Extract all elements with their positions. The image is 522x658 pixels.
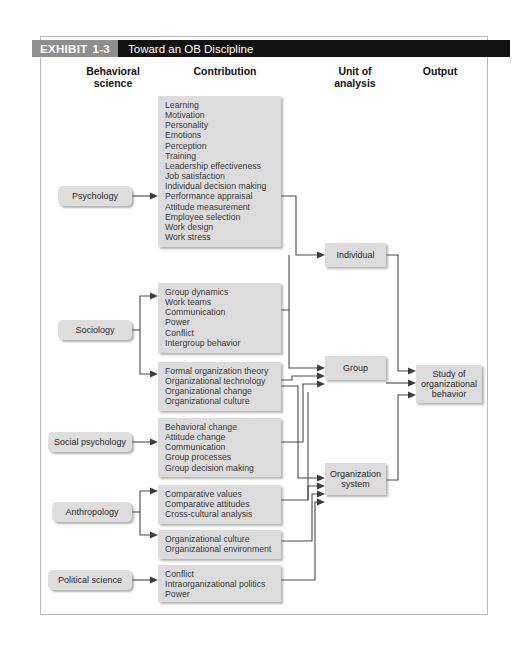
contribution-item: Leadership effectiveness <box>165 161 275 171</box>
contribution-item: Work stress <box>165 232 275 242</box>
discipline-label: Political science <box>58 575 122 585</box>
contribution-item: Conflict <box>165 328 275 338</box>
contribution-item: Organizational technology <box>165 376 275 386</box>
contribution-item: Communication <box>165 307 275 317</box>
contribution-item: Power <box>165 589 275 599</box>
contribution-item: Perception <box>165 141 275 151</box>
discipline-social-psychology[interactable]: Social psychology <box>48 432 132 452</box>
unit-label-line-1: Organization <box>330 469 381 479</box>
contribution-box-political-science[interactable]: ConflictIntraorganizational politicsPowe… <box>158 565 281 602</box>
unit-organization-system[interactable]: Organization system <box>325 463 386 495</box>
contribution-item: Attitude change <box>165 432 275 442</box>
contribution-item: Motivation <box>165 110 275 120</box>
contribution-item: Group processes <box>165 452 275 462</box>
unit-individual[interactable]: Individual <box>325 243 386 267</box>
contribution-item: Behavioral change <box>165 422 275 432</box>
contribution-item: Attitude measurement <box>165 202 275 212</box>
output-label-line-1: Study of <box>432 369 465 379</box>
contribution-item: Formal organization theory <box>165 366 275 376</box>
unit-label: Individual <box>336 250 374 260</box>
contribution-item: Organizational culture <box>165 396 275 406</box>
discipline-label: Social psychology <box>54 437 126 447</box>
exhibit-tag: EXHIBIT 1-3 <box>32 40 118 57</box>
contribution-item: Work teams <box>165 297 275 307</box>
contribution-box-psychology[interactable]: LearningMotivationPersonalityEmotionsPer… <box>158 96 281 247</box>
contribution-item: Organizational change <box>165 386 275 396</box>
output-study-of-organizational-behavior[interactable]: Study of organizational behavior <box>416 365 482 403</box>
contribution-item: Power <box>165 317 275 327</box>
contribution-item: Cross-cultural analysis <box>165 509 275 519</box>
unit-of-analysis-line-2: analysis <box>305 78 405 90</box>
contribution-item: Organizational environment <box>165 544 275 554</box>
contribution-item: Comparative attitudes <box>165 499 275 509</box>
contribution-item: Personality <box>165 120 275 130</box>
contribution-item: Emotions <box>165 130 275 140</box>
contribution-item: Group dynamics <box>165 287 275 297</box>
contribution-item: Individual decision making <box>165 181 275 191</box>
discipline-label: Sociology <box>75 325 114 335</box>
contribution-item: Intergroup behavior <box>165 338 275 348</box>
contribution-item: Performance appraisal <box>165 191 275 201</box>
contribution-box-anthropology-group[interactable]: Comparative valuesComparative attitudesC… <box>158 485 281 524</box>
discipline-label: Psychology <box>72 191 118 201</box>
behavioral-science-line-1: Behavioral <box>58 66 168 78</box>
contribution-item: Communication <box>165 442 275 452</box>
discipline-sociology[interactable]: Sociology <box>58 320 132 340</box>
exhibit-header: EXHIBIT 1-3 Toward an OB Discipline <box>32 40 510 57</box>
exhibit-word: EXHIBIT <box>40 43 87 55</box>
discipline-psychology[interactable]: Psychology <box>58 186 132 206</box>
contribution-item: Comparative values <box>165 489 275 499</box>
contribution-item: Employee selection <box>165 212 275 222</box>
column-heading-behavioral-science: Behavioral science <box>58 66 168 89</box>
column-heading-contribution: Contribution <box>165 66 285 78</box>
discipline-label: Anthropology <box>65 507 118 517</box>
contribution-item: Job satisfaction <box>165 171 275 181</box>
contribution-item: Group decision making <box>165 463 275 473</box>
contribution-item: Learning <box>165 100 275 110</box>
unit-label-line-2: system <box>341 479 370 489</box>
contribution-box-anthropology-organization[interactable]: Organizational cultureOrganizational env… <box>158 530 281 559</box>
unit-group[interactable]: Group <box>325 356 386 380</box>
contribution-item: Intraorganizational politics <box>165 579 275 589</box>
unit-label: Group <box>343 363 368 373</box>
contribution-box-social-psychology[interactable]: Behavioral changeAttitude changeCommunic… <box>158 418 281 477</box>
output-label-line-2: organizational <box>421 379 477 389</box>
output-label-line-3: behavior <box>432 389 467 399</box>
column-heading-output: Output <box>400 66 480 78</box>
contribution-item: Work design <box>165 222 275 232</box>
discipline-political-science[interactable]: Political science <box>48 570 132 590</box>
contribution-item: Organizational culture <box>165 534 275 544</box>
column-heading-unit-of-analysis: Unit of analysis <box>305 66 405 89</box>
discipline-anthropology[interactable]: Anthropology <box>52 502 132 522</box>
contribution-item: Training <box>165 151 275 161</box>
exhibit-number: 1-3 <box>92 43 110 55</box>
contribution-box-sociology-organization[interactable]: Formal organization theoryOrganizational… <box>158 362 281 411</box>
behavioral-science-line-2: science <box>58 78 168 90</box>
exhibit-title: Toward an OB Discipline <box>118 40 510 57</box>
unit-of-analysis-line-1: Unit of <box>305 66 405 78</box>
contribution-box-sociology-group[interactable]: Group dynamicsWork teamsCommunicationPow… <box>158 283 281 353</box>
contribution-item: Conflict <box>165 569 275 579</box>
